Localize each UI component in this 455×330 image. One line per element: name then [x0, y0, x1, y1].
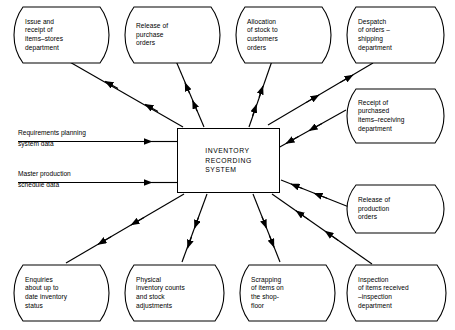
node-label: Scrapping of items on the shop- floor [238, 276, 296, 310]
node-physical-inventory-counts[interactable]: Physical inventory counts and stock adju… [123, 264, 227, 322]
flow-issue-receipt-items-stores [68, 61, 183, 127]
center-process-box[interactable]: INVENTORY RECORDING SYSTEM [177, 128, 280, 193]
node-scrapping-of-items[interactable]: Scrapping of items on the shop- floor [238, 264, 338, 322]
node-label: Inspection of items received –inspection… [345, 276, 421, 310]
node-release-of-purchase-orders[interactable]: Release of purchase orders [123, 6, 223, 64]
node-label: Enquiries about up to date inventory sta… [12, 276, 79, 310]
node-despatch-of-orders[interactable]: Despatch of orders – shipping department [345, 6, 447, 64]
node-label: Release of purchase orders [123, 22, 180, 48]
node-label: Allocation of stock to customers orders [234, 18, 290, 52]
node-label: Physical inventory counts and stock adju… [123, 276, 197, 310]
input-label-line-2: schedule data [18, 180, 71, 189]
flow-enquiries-inventory-status [66, 194, 184, 263]
node-inspection-of-items-received[interactable]: Inspection of items received –inspection… [345, 264, 449, 322]
diagram-canvas: INVENTORY RECORDING SYSTEM Issue and rec… [0, 0, 455, 330]
flow-release-of-purchase-orders [176, 61, 204, 127]
node-label: Receipt of purchased items–receiving dep… [345, 99, 417, 133]
input-master-production-schedule-data: Master production schedule data [18, 169, 71, 189]
flow-allocation-of-stock [249, 61, 272, 127]
input-label-line-1: Requirements planning [18, 128, 86, 137]
node-issue-receipt-items-stores[interactable]: Issue and receipt of items–stores depart… [12, 6, 112, 64]
node-label: Despatch of orders – shipping department [345, 18, 404, 52]
node-label: Release of production orders [345, 196, 402, 222]
flow-release-of-production-orders [281, 180, 349, 207]
flow-receipt-of-purchased-items [278, 110, 346, 148]
input-requirements-planning-system-data: Requirements planning system data [18, 128, 86, 148]
center-process-label: INVENTORY RECORDING SYSTEM [205, 146, 252, 174]
node-receipt-of-purchased-items[interactable]: Receipt of purchased items–receiving dep… [345, 88, 447, 144]
input-label-line-1: Master production [18, 169, 71, 178]
node-release-of-production-orders[interactable]: Release of production orders [345, 184, 447, 234]
node-label: Issue and receipt of items–stores depart… [12, 18, 75, 52]
node-allocation-of-stock[interactable]: Allocation of stock to customers orders [234, 6, 334, 64]
flow-physical-inventory-counts [182, 194, 207, 262]
flow-scrapping-of-items [253, 194, 280, 262]
input-label-line-2: system data [18, 139, 86, 148]
node-enquiries-inventory-status[interactable]: Enquiries about up to date inventory sta… [12, 264, 112, 322]
